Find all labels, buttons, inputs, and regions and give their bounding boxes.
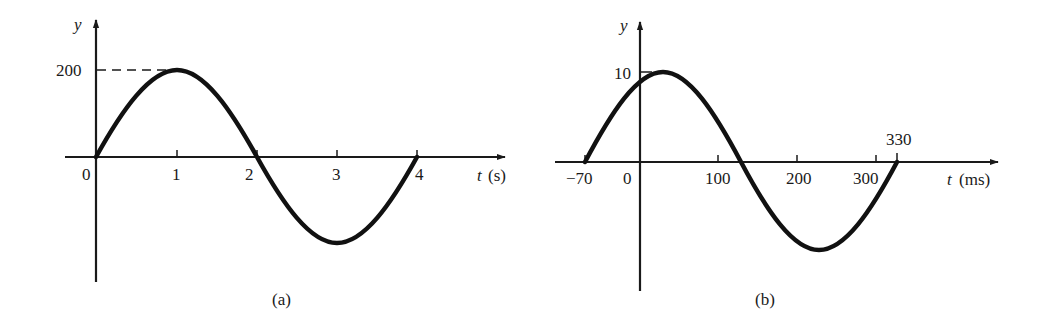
panel-b-caption: (b) [755,290,775,309]
panel-a-x-tick-2: 2 [245,165,254,184]
panel-b-x-label-unit: (ms) [959,170,990,189]
figure: y 200 0 1 2 3 4 t (s) (a) y 10 −70 0 100… [0,0,1038,335]
panel-b-y-label: y [618,16,628,35]
panel-b-y-tick-10: 10 [614,64,631,83]
panel-b-x-tick-200: 200 [786,169,812,188]
panel-b-x-tick-100: 100 [705,169,731,188]
panel-a-caption: (a) [272,290,291,309]
panel-a-x-tick-3: 3 [332,165,341,184]
panel-a-x-label-var: t [477,166,483,185]
panel-a-y-label: y [72,15,82,34]
panel-a-y-tick-200: 200 [56,61,82,80]
panel-b-x-label-var: t [947,170,953,189]
panel-b-x-tick-0: 0 [623,169,632,188]
panel-a-x-tick-0: 0 [82,165,91,184]
panel-a-x-label-unit: (s) [488,166,506,185]
panel-b-x-tick-300: 300 [853,169,879,188]
panel-b-end-label-330: 330 [886,130,912,149]
panel-b-x-tick-neg70: −70 [566,169,593,188]
panel-a-x-tick-4: 4 [415,165,424,184]
panel-a-x-tick-1: 1 [172,165,181,184]
panel-b: y 10 −70 0 100 200 300 330 t (ms) (b) [555,16,998,309]
panel-a: y 200 0 1 2 3 4 t (s) (a) [56,15,506,309]
